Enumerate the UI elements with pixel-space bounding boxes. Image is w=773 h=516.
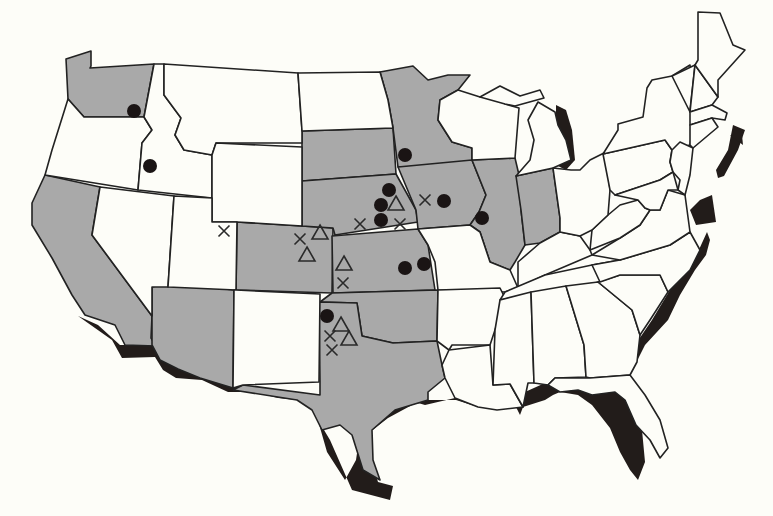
filled-circle-marker-icon: [437, 194, 451, 208]
state-new-mexico: [233, 290, 320, 388]
state-south-dakota: [302, 128, 396, 181]
state-montana: [164, 64, 302, 155]
filled-circle-marker-icon: [127, 104, 141, 118]
state-colorado: [236, 222, 333, 293]
filled-circle-marker-icon: [374, 198, 388, 212]
states: [32, 12, 745, 480]
filled-circle-marker-icon: [374, 213, 388, 227]
state-washington: [66, 51, 154, 117]
filled-circle-marker-icon: [475, 211, 489, 225]
state-wyoming: [212, 143, 302, 226]
state-north-dakota: [298, 72, 393, 131]
us-map: [0, 0, 773, 516]
filled-circle-marker-icon: [417, 257, 431, 271]
filled-circle-marker-icon: [320, 309, 334, 323]
filled-circle-marker-icon: [398, 261, 412, 275]
filled-circle-marker-icon: [143, 159, 157, 173]
filled-circle-marker-icon: [382, 183, 396, 197]
filled-circle-marker-icon: [398, 148, 412, 162]
state-arizona: [152, 283, 234, 388]
